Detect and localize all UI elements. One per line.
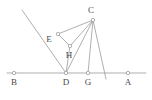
geometry-canvas: B D G A C E H (0, 0, 152, 100)
point-marker-C (91, 18, 94, 21)
point-marker-E (56, 32, 59, 35)
segment-E-H (58, 34, 70, 46)
point-marker-H (68, 44, 71, 47)
segment-group (7, 10, 146, 79)
point-marker-D (64, 71, 67, 74)
point-marker-B (12, 71, 15, 74)
geometry-figure: B D G A C E H (0, 0, 152, 100)
point-label-G: G (85, 77, 92, 87)
point-label-B: B (11, 77, 17, 87)
segment-E-C (58, 20, 93, 34)
point-label-D: D (63, 77, 70, 87)
point-label-A: A (125, 77, 132, 87)
ray-through-E-to-D (22, 10, 66, 73)
point-label-H: H (66, 50, 73, 60)
point-label-C: C (88, 5, 94, 15)
point-marker-G (86, 71, 89, 74)
point-label-E: E (46, 34, 52, 44)
point-marker-A (126, 71, 129, 74)
point-marker-group (12, 18, 129, 74)
cevian-C-through-baseline-extended (93, 20, 106, 79)
